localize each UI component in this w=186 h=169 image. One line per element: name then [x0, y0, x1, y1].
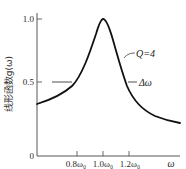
lineshape-chart: 1.0 0.5 0 0.8ω₀ 1.0ω₀ 1.2ω₀ ω 线形函数g(ω) Δ…: [0, 0, 186, 169]
y-tick-label-0: 0: [30, 151, 35, 161]
y-axis-label: 线形函数g(ω): [3, 56, 14, 112]
x-tick-label-12: 1.2ω₀: [120, 159, 140, 169]
x-tick-label-08: 0.8ω₀: [66, 159, 86, 169]
y-tick-label-1: 1.0: [23, 14, 35, 24]
x-axis-label: ω: [167, 158, 174, 169]
lineshape-curve: [37, 19, 180, 123]
q-leader-line: [124, 53, 135, 58]
q-annotation: Q=4: [136, 48, 155, 59]
x-tick-label-10: 1.0ω₀: [93, 159, 113, 169]
y-tick-label-05: 0.5: [23, 77, 35, 87]
delta-omega-label: Δω: [138, 77, 152, 88]
